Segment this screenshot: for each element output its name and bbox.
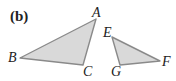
figure-canvas: (b) A B C E F G bbox=[0, 0, 176, 81]
vertex-label-g: G bbox=[111, 64, 121, 79]
vertex-label-c: C bbox=[83, 64, 93, 79]
vertex-label-e: E bbox=[102, 25, 112, 40]
triangle-abc bbox=[20, 19, 96, 65]
vertex-label-a: A bbox=[91, 5, 101, 20]
vertex-label-b: B bbox=[8, 50, 17, 65]
panel-label: (b) bbox=[10, 8, 28, 25]
vertex-label-f: F bbox=[161, 54, 171, 69]
triangle-efg bbox=[112, 37, 160, 65]
